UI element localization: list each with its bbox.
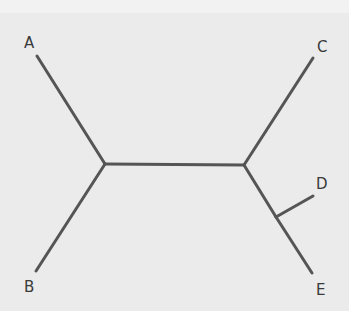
node-label-c: C — [317, 40, 327, 55]
branch-internal — [105, 164, 244, 165]
branch-e — [276, 217, 312, 273]
branch-c — [244, 58, 313, 165]
tree-branches — [0, 0, 349, 311]
node-label-d: D — [316, 177, 328, 192]
node-label-b: B — [24, 280, 34, 295]
node-label-a: A — [24, 36, 34, 51]
phylogenetic-tree-diagram: A B C D E — [0, 0, 349, 311]
branch-b — [36, 164, 105, 271]
node-label-e: E — [316, 283, 325, 298]
branch-d — [276, 196, 313, 217]
branch-a — [37, 56, 105, 164]
branch-internal-de — [244, 165, 276, 217]
